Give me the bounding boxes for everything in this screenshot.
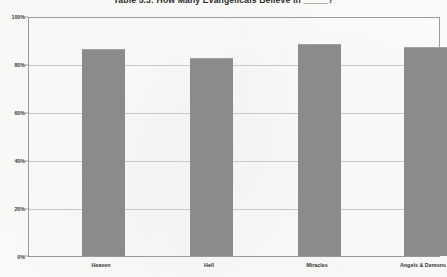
chart-screenshot: Table 5.3: How Many Evangelicals Believe… — [0, 0, 447, 277]
chart-title: Table 5.3: How Many Evangelicals Believe… — [0, 0, 447, 5]
x-tick-label-miracles: Miracles — [306, 262, 328, 268]
x-tick-label-angels-demons: Angels & Demons — [400, 262, 446, 268]
plot-area — [28, 17, 440, 257]
x-tick-label-heaven: Heaven — [91, 262, 110, 268]
y-axis: 100% 80% 60% 40% 20% 0% — [0, 0, 28, 277]
y-tick-label-100: 100% — [11, 14, 25, 20]
bar-angels-demons — [404, 47, 447, 256]
bar-hell — [190, 58, 233, 256]
x-tick-label-hell: Hell — [204, 262, 214, 268]
bar-miracles — [298, 44, 341, 256]
bar-heaven — [82, 49, 125, 256]
